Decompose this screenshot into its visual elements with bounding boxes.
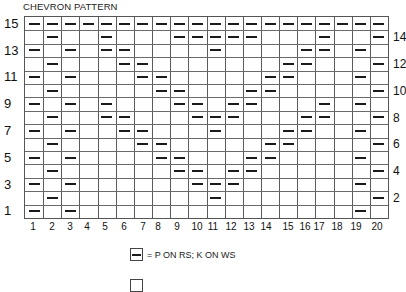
purl-cell bbox=[170, 151, 188, 164]
purl-dash-icon bbox=[210, 36, 221, 38]
purl-dash-icon bbox=[47, 63, 58, 65]
column-label-5: 5 bbox=[96, 221, 114, 232]
purl-cell bbox=[261, 151, 279, 164]
purl-dash-icon bbox=[65, 130, 76, 132]
purl-cell bbox=[370, 111, 388, 124]
purl-dash-icon bbox=[137, 63, 148, 65]
row-label-9: 9 bbox=[4, 97, 20, 111]
purl-cell bbox=[279, 138, 297, 151]
purl-dash-icon bbox=[373, 23, 384, 25]
purl-dash-icon bbox=[373, 63, 384, 65]
purl-cell bbox=[243, 84, 261, 97]
purl-dash-icon bbox=[355, 130, 366, 132]
purl-cell bbox=[334, 17, 352, 30]
purl-dash-icon bbox=[246, 23, 257, 25]
grid-column-line bbox=[134, 17, 135, 218]
purl-cell bbox=[116, 111, 134, 124]
purl-cell bbox=[61, 124, 79, 137]
purl-cell bbox=[152, 151, 170, 164]
purl-cell bbox=[134, 17, 152, 30]
purl-dash-icon bbox=[137, 76, 148, 78]
purl-dash-icon bbox=[156, 143, 167, 145]
purl-cell bbox=[43, 164, 61, 177]
purl-dash-icon bbox=[119, 63, 130, 65]
column-label-1: 1 bbox=[24, 221, 42, 232]
purl-dash-icon bbox=[47, 116, 58, 118]
purl-dash-icon bbox=[119, 49, 130, 51]
row-label-8: 8 bbox=[393, 111, 400, 125]
purl-dash-icon bbox=[101, 23, 112, 25]
purl-cell bbox=[116, 57, 134, 70]
purl-dash-icon bbox=[47, 170, 58, 172]
purl-dash-icon bbox=[265, 90, 276, 92]
purl-dash-icon bbox=[246, 36, 257, 38]
purl-dash-icon bbox=[192, 116, 203, 118]
purl-cell bbox=[279, 17, 297, 30]
grid-column-line bbox=[261, 17, 262, 218]
purl-dash-icon bbox=[29, 103, 40, 105]
purl-cell bbox=[207, 178, 225, 191]
grid-row-line bbox=[25, 71, 388, 72]
purl-cell bbox=[25, 97, 43, 110]
purl-dash-icon bbox=[246, 170, 257, 172]
purl-cell bbox=[25, 178, 43, 191]
purl-cell bbox=[370, 57, 388, 70]
purl-dash-icon bbox=[373, 36, 384, 38]
purl-cell bbox=[207, 17, 225, 30]
purl-dash-icon bbox=[355, 183, 366, 185]
purl-cell bbox=[207, 44, 225, 57]
purl-cell bbox=[152, 17, 170, 30]
grid-row-line bbox=[25, 138, 388, 139]
column-label-6: 6 bbox=[115, 221, 133, 232]
purl-dash-icon bbox=[246, 103, 257, 105]
purl-cell bbox=[207, 124, 225, 137]
purl-dash-icon bbox=[373, 116, 384, 118]
purl-cell bbox=[134, 138, 152, 151]
purl-dash-icon bbox=[210, 197, 221, 199]
purl-cell bbox=[79, 17, 97, 30]
purl-dash-icon bbox=[301, 63, 312, 65]
grid-column-line bbox=[243, 17, 244, 218]
purl-dash-icon bbox=[101, 36, 112, 38]
purl-cell bbox=[25, 151, 43, 164]
purl-cell bbox=[297, 17, 315, 30]
column-label-9: 9 bbox=[168, 221, 186, 232]
purl-dash-icon bbox=[319, 23, 330, 25]
purl-dash-icon bbox=[265, 157, 276, 159]
purl-cell bbox=[370, 17, 388, 30]
purl-dash-icon bbox=[319, 36, 330, 38]
purl-cell bbox=[261, 17, 279, 30]
row-label-1: 1 bbox=[4, 204, 20, 218]
purl-dash-icon bbox=[137, 143, 148, 145]
purl-dash-icon bbox=[174, 170, 185, 172]
purl-cell bbox=[352, 71, 370, 84]
purl-dash-icon bbox=[156, 157, 167, 159]
purl-cell bbox=[188, 164, 206, 177]
purl-cell bbox=[370, 30, 388, 43]
purl-cell bbox=[315, 111, 333, 124]
purl-dash-icon bbox=[373, 197, 384, 199]
purl-cell bbox=[152, 138, 170, 151]
purl-dash-icon bbox=[228, 36, 239, 38]
purl-cell bbox=[243, 151, 261, 164]
purl-dash-icon bbox=[101, 116, 112, 118]
purl-cell bbox=[170, 164, 188, 177]
purl-cell bbox=[152, 71, 170, 84]
purl-cell bbox=[225, 17, 243, 30]
row-label-15: 15 bbox=[4, 17, 20, 31]
legend-purl-symbol bbox=[130, 248, 143, 261]
purl-cell bbox=[61, 17, 79, 30]
row-label-10: 10 bbox=[393, 84, 406, 98]
purl-dash-icon bbox=[137, 130, 148, 132]
purl-cell bbox=[43, 57, 61, 70]
purl-dash-icon bbox=[355, 210, 366, 212]
purl-cell bbox=[279, 71, 297, 84]
purl-dash-icon bbox=[355, 157, 366, 159]
purl-dash-icon bbox=[174, 90, 185, 92]
purl-dash-icon bbox=[337, 23, 348, 25]
column-label-2: 2 bbox=[43, 221, 61, 232]
purl-dash-icon bbox=[47, 197, 58, 199]
purl-dash-icon bbox=[47, 36, 58, 38]
purl-dash-icon bbox=[29, 183, 40, 185]
purl-dash-icon bbox=[301, 130, 312, 132]
